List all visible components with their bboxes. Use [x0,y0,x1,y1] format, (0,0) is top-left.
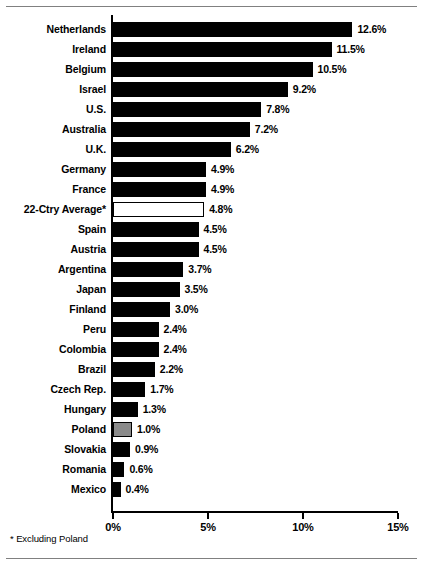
bar-value-label: 7.8% [266,103,289,115]
axis-tick-label: 5% [200,521,216,533]
footnote: * Excluding Poland [10,533,88,544]
bar [113,82,288,97]
bar [113,102,261,117]
axis-tick-label: 15% [387,521,408,533]
bar [113,122,250,137]
chart-row: Colombia2.4% [0,340,423,360]
category-label: 22-Ctry Average* [0,203,106,215]
category-label: Slovakia [0,443,106,455]
chart-row: Germany4.9% [0,160,423,180]
chart-row: Peru2.4% [0,320,423,340]
bar-value-label: 7.2% [255,123,278,135]
bar-value-label: 1.7% [150,383,173,395]
bar [113,222,199,237]
chart-row: Australia7.2% [0,120,423,140]
chart-row: Netherlands12.6% [0,20,423,40]
bar-value-label: 4.8% [209,203,232,215]
category-label: Hungary [0,403,106,415]
category-label: Netherlands [0,23,106,35]
chart-row: 22-Ctry Average*4.8% [0,200,423,220]
category-axis-line [111,15,113,512]
bar-value-label: 1.0% [137,423,160,435]
bar-value-label: 1.3% [143,403,166,415]
bar [113,402,138,417]
bar-value-label: 11.5% [337,43,365,55]
bar-value-label: 2.4% [164,343,187,355]
chart-row: France4.9% [0,180,423,200]
top-divider-rule [6,6,417,7]
category-label: U.S. [0,103,106,115]
bar-value-label: 0.4% [126,483,149,495]
bar [113,322,159,337]
chart-row: Finland3.0% [0,300,423,320]
bar [113,282,180,297]
bar [113,22,352,37]
bar-value-label: 4.5% [204,243,227,255]
bar [113,342,159,357]
category-label: Spain [0,223,106,235]
bar [113,182,206,197]
bar [113,462,124,477]
chart-row: U.S.7.8% [0,100,423,120]
bar-value-label: 10.5% [318,63,347,75]
bar [113,262,183,277]
category-label: Ireland [0,43,106,55]
bar [113,422,132,437]
bar [113,42,332,57]
axis-tick [207,513,209,519]
bar-value-label: 2.2% [160,363,183,375]
bar-value-label: 9.2% [293,83,316,95]
axis-tick [112,513,114,519]
category-label: Israel [0,83,106,95]
bar-value-label: 6.2% [236,143,259,155]
chart-page: Netherlands12.6%Ireland11.5%Belgium10.5%… [0,0,423,573]
bar [113,362,155,377]
bar [113,142,231,157]
category-label: Argentina [0,263,106,275]
bar-value-label: 2.4% [164,323,187,335]
category-label: Germany [0,163,106,175]
chart-row: Brazil2.2% [0,360,423,380]
bar-value-label: 12.6% [357,23,386,35]
bar-value-label: 0.6% [129,463,152,475]
chart-row: Mexico0.4% [0,480,423,500]
category-label: Peru [0,323,106,335]
category-label: Mexico [0,483,106,495]
chart-row: Israel9.2% [0,80,423,100]
chart-row: Poland1.0% [0,420,423,440]
category-label: Belgium [0,63,106,75]
chart-row: Argentina3.7% [0,260,423,280]
chart-row: Czech Rep.1.7% [0,380,423,400]
axis-tick [397,513,399,519]
bar [113,62,313,77]
bar [113,382,145,397]
bottom-divider-rule [6,558,417,559]
category-label: Austria [0,243,106,255]
bar-value-label: 4.9% [211,163,234,175]
bar-chart: Netherlands12.6%Ireland11.5%Belgium10.5%… [0,14,423,524]
axis-tick [302,513,304,519]
bar-value-label: 3.0% [175,303,198,315]
category-label: Japan [0,283,106,295]
bar [113,202,204,217]
chart-row: Austria4.5% [0,240,423,260]
category-label: Australia [0,123,106,135]
bar [113,162,206,177]
chart-row: Belgium10.5% [0,60,423,80]
bar-value-label: 4.5% [204,223,227,235]
chart-row: U.K.6.2% [0,140,423,160]
bar [113,242,199,257]
value-axis-line [111,511,398,513]
chart-row: Japan3.5% [0,280,423,300]
category-label: Romania [0,463,106,475]
category-label: Poland [0,423,106,435]
chart-row: Ireland11.5% [0,40,423,60]
bar-value-label: 4.9% [211,183,234,195]
category-label: Czech Rep. [0,383,106,395]
category-label: Brazil [0,363,106,375]
category-label: France [0,183,106,195]
chart-row: Hungary1.3% [0,400,423,420]
category-label: Finland [0,303,106,315]
chart-row: Spain4.5% [0,220,423,240]
chart-row: Romania0.6% [0,460,423,480]
